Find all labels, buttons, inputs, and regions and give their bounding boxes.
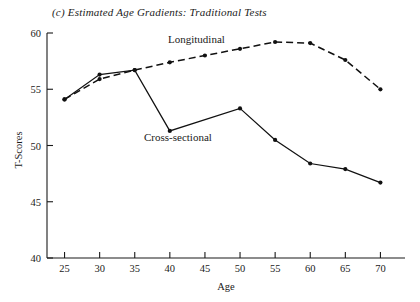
x-tick-label: 50 (235, 263, 246, 274)
y-tick-label: 40 (31, 253, 42, 264)
x-tick-label: 45 (200, 263, 211, 274)
chart-figure: (c) Estimated Age Gradients: Traditional… (0, 0, 420, 302)
data-point-marker (378, 181, 382, 185)
x-tick-label: 55 (270, 263, 281, 274)
x-tick-label: 35 (129, 263, 140, 274)
x-tick-label: 65 (340, 263, 351, 274)
y-axis-title: T-Scores (13, 132, 24, 169)
data-point-marker (308, 161, 312, 165)
y-tick-label: 50 (31, 141, 42, 152)
data-point-marker (98, 73, 102, 77)
y-tick-label: 60 (31, 28, 42, 39)
data-point-marker (343, 167, 347, 171)
series-line-longitudinal (65, 42, 381, 99)
series-label-cross-sectional: Cross-sectional (144, 131, 212, 143)
x-tick-label: 30 (94, 263, 105, 274)
series-line-cross-sectional (65, 70, 381, 183)
x-tick-label: 70 (375, 263, 386, 274)
data-point-marker (203, 53, 207, 57)
x-tick-label: 25 (59, 263, 70, 274)
y-tick-label: 45 (31, 197, 42, 208)
chart-plot-area: 4045505560 25303540455055606570 Longitud… (0, 0, 420, 302)
data-point-marker (308, 41, 312, 45)
x-axis: 25303540455055606570 (47, 252, 405, 274)
x-tick-label: 40 (165, 263, 176, 274)
data-point-marker (238, 106, 242, 110)
data-point-marker (98, 77, 102, 81)
data-point-marker (378, 87, 382, 91)
data-point-marker (168, 60, 172, 64)
data-point-marker (273, 138, 277, 142)
data-point-marker (273, 40, 277, 44)
data-point-marker (343, 58, 347, 62)
series-label-longitudinal: Longitudinal (168, 33, 225, 45)
y-tick-label: 55 (31, 84, 42, 95)
data-point-marker (133, 68, 137, 72)
x-tick-label: 60 (305, 263, 316, 274)
data-series-group (62, 40, 382, 185)
y-axis: 4045505560 (31, 28, 54, 264)
x-axis-title: Age (217, 281, 235, 292)
data-point-marker (62, 97, 66, 101)
data-point-marker (238, 47, 242, 51)
